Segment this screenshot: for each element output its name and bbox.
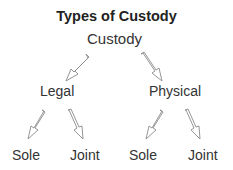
arrow-physical-to-joint-icon — [185, 109, 200, 139]
arrow-legal-to-joint-icon — [68, 109, 83, 139]
arrow-physical-to-sole-icon — [146, 110, 163, 139]
arrow-custody-to-physical-icon — [141, 52, 162, 81]
arrow-legal-to-sole-icon — [28, 110, 45, 139]
arrow-custody-to-legal-icon — [66, 54, 89, 81]
connector-arrows — [0, 0, 233, 170]
